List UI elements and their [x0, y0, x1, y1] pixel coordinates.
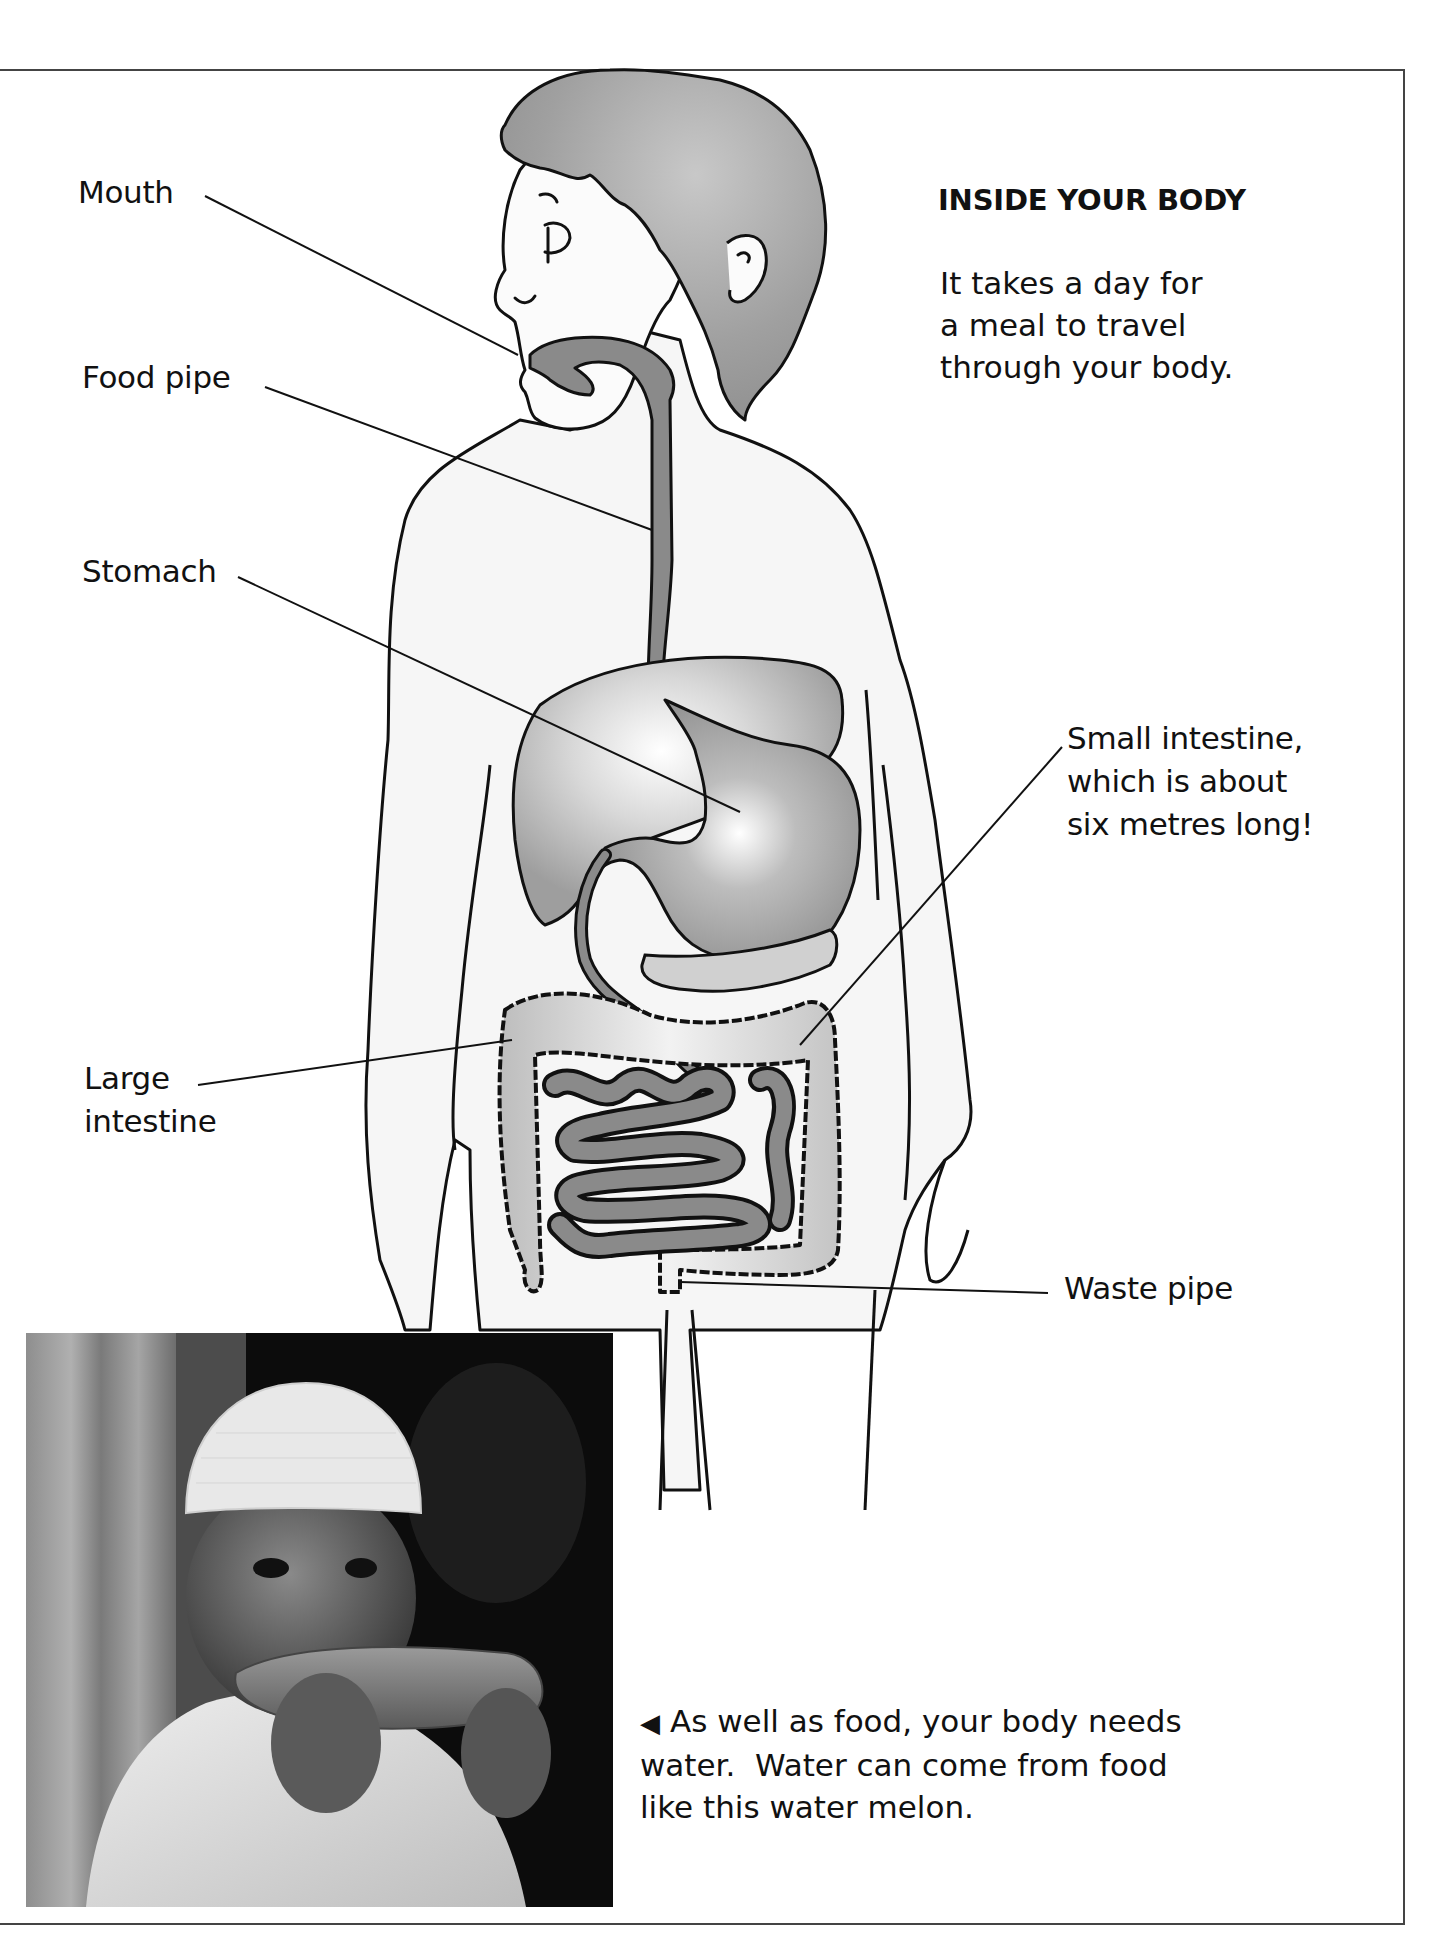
left-triangle-icon: ◀: [640, 1708, 660, 1738]
label-small-intestine-line-1: Small intestine,: [1067, 717, 1313, 760]
caption-line-1-text: As well as food, your body needs: [670, 1703, 1182, 1739]
label-small-intestine: Small intestine, which is about six metr…: [1067, 717, 1313, 846]
caption-line-1: ◀As well as food, your body needs: [640, 1700, 1280, 1744]
intro-line-2: a meal to travel: [940, 304, 1300, 346]
label-large-intestine: Large intestine: [84, 1057, 216, 1143]
caption-line-3: like this water melon.: [640, 1786, 1280, 1828]
label-food-pipe: Food pipe: [82, 357, 231, 397]
label-stomach: Stomach: [82, 551, 217, 591]
intro-line-1: It takes a day for: [940, 262, 1300, 304]
photo-boy-eating-watermelon: [26, 1333, 613, 1907]
label-large-intestine-line-2: intestine: [84, 1100, 216, 1143]
page-title: INSIDE YOUR BODY: [938, 183, 1246, 217]
label-small-intestine-line-3: six metres long!: [1067, 803, 1313, 846]
photo-illustration: [26, 1333, 613, 1907]
label-waste-pipe: Waste pipe: [1064, 1268, 1233, 1308]
intro-text: It takes a day for a meal to travel thro…: [940, 262, 1300, 388]
intro-line-3: through your body.: [940, 346, 1300, 388]
photo-caption: ◀As well as food, your body needs water.…: [640, 1700, 1280, 1828]
caption-line-2: water. Water can come from food: [640, 1744, 1280, 1786]
label-large-intestine-line-1: Large: [84, 1057, 216, 1100]
label-small-intestine-line-2: which is about: [1067, 760, 1313, 803]
label-mouth: Mouth: [78, 172, 174, 212]
